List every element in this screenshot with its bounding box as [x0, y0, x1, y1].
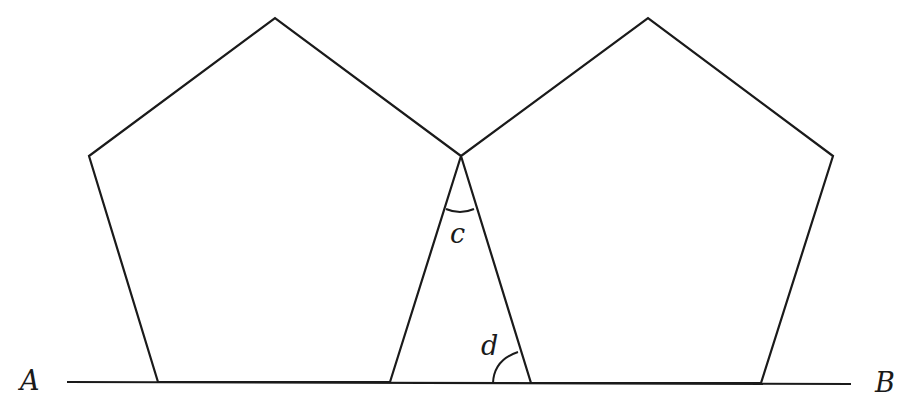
angle-d-label: d: [481, 330, 498, 361]
right-pentagon: [461, 18, 833, 383]
angle-c-arc: [446, 209, 474, 212]
left-pentagon: [89, 18, 461, 382]
pentagons-diagram: c d A B: [0, 0, 911, 412]
point-b-label: B: [874, 367, 895, 398]
point-a-label: A: [17, 365, 40, 396]
angle-c-label: c: [450, 218, 465, 249]
